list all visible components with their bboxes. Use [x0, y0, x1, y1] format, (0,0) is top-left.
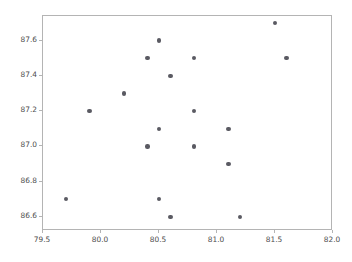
scatter-point: [87, 109, 91, 113]
y-tick-label: 87.6: [8, 36, 37, 43]
scatter-point: [145, 56, 149, 60]
x-tick-mark: [158, 230, 159, 233]
x-tick-mark: [42, 230, 43, 233]
scatter-point: [192, 56, 196, 60]
scatter-point: [122, 91, 126, 95]
plot-area: [42, 15, 332, 230]
scatter-point: [145, 144, 149, 148]
scatter-point: [226, 162, 230, 166]
scatter-point: [168, 215, 172, 219]
x-tick-label: 80.0: [92, 236, 108, 243]
scatter-point: [284, 56, 288, 60]
scatter-point: [192, 109, 196, 113]
x-tick-label: 81.5: [266, 236, 282, 243]
scatter-point: [238, 215, 242, 219]
scatter-point: [157, 127, 161, 131]
x-tick-mark: [274, 230, 275, 233]
scatter-point: [273, 21, 277, 25]
y-tick-label: 86.6: [8, 212, 37, 219]
x-tick-label: 81.0: [208, 236, 224, 243]
y-tick-label: 87.2: [8, 106, 37, 113]
x-tick-label: 79.5: [34, 236, 50, 243]
x-tick-mark: [332, 230, 333, 233]
x-tick-mark: [100, 230, 101, 233]
x-tick-label: 82.0: [324, 236, 340, 243]
y-tick-label: 87.0: [8, 142, 37, 149]
scatter-point: [168, 74, 172, 78]
x-tick-mark: [216, 230, 217, 233]
scatter-point: [226, 127, 230, 131]
scatter-plot-figure: 86.686.887.087.287.487.6 79.580.080.581.…: [0, 0, 352, 262]
y-tick-label: 86.8: [8, 177, 37, 184]
scatter-point: [64, 197, 68, 201]
y-tick-label: 87.4: [8, 71, 37, 78]
scatter-point: [157, 197, 161, 201]
x-tick-label: 80.5: [150, 236, 166, 243]
scatter-point: [157, 38, 161, 42]
scatter-points-layer: [43, 16, 331, 229]
scatter-point: [192, 144, 196, 148]
